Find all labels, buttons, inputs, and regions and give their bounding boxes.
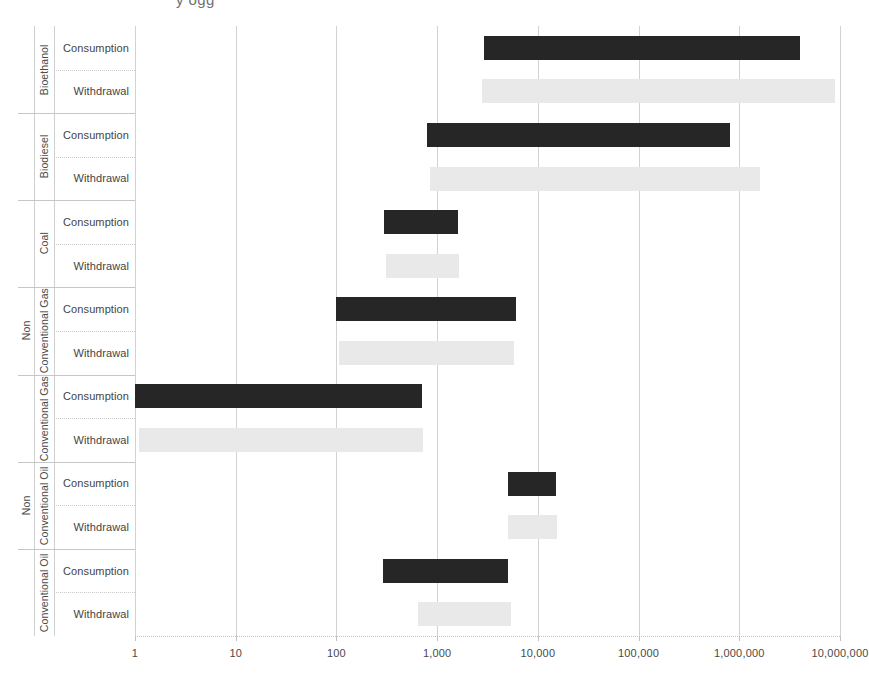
measure-separator	[54, 331, 135, 332]
group-separator	[18, 549, 135, 550]
measure-separator	[54, 505, 135, 506]
measure-label-consumption: Consumption	[54, 375, 129, 419]
gridline	[336, 26, 337, 636]
bar-coal-withdrawal[interactable]	[386, 254, 459, 278]
bar-coal-consumption[interactable]	[384, 210, 457, 234]
group-label-bioethanol: Bioethanol	[38, 26, 50, 113]
x-axis-tick-label: 100,000	[618, 647, 659, 659]
x-axis-tick-label: 1	[132, 647, 138, 659]
group-separator	[18, 200, 135, 201]
gridline	[236, 26, 237, 636]
gridline	[840, 26, 841, 636]
x-axis-tick	[135, 636, 136, 641]
measure-label-consumption: Consumption	[54, 287, 129, 331]
measure-label-consumption: Consumption	[54, 26, 129, 70]
measure-separator	[54, 244, 135, 245]
measure-label-withdrawal: Withdrawal	[54, 70, 129, 114]
bar-conventional-gas-withdrawal[interactable]	[339, 341, 514, 365]
x-axis-tick	[437, 636, 438, 641]
group-label-conventional-gas: Conventional Gas	[38, 287, 50, 374]
x-axis-tick	[840, 636, 841, 641]
x-axis: 1101001,00010,000100,0001,000,00010,000,…	[135, 636, 840, 684]
measure-separator	[54, 592, 135, 593]
x-axis-tick	[236, 636, 237, 641]
group-label-conventional-oil: Conventional Oil	[38, 462, 50, 549]
measure-label-consumption: Consumption	[54, 462, 129, 506]
gridline	[639, 26, 640, 636]
measure-label-withdrawal: Withdrawal	[54, 157, 129, 201]
outer-category-gutter: NonNon	[18, 26, 34, 636]
measure-label-consumption: Consumption	[54, 549, 129, 593]
bar-bioethanol-consumption[interactable]	[484, 36, 800, 60]
bar-biodiesel-consumption[interactable]	[427, 123, 729, 147]
group-separator	[18, 287, 135, 288]
bar-conventional-oil-withdrawal[interactable]	[508, 515, 557, 539]
outer-label-non: Non	[20, 287, 32, 374]
bar-conventional-gas-consumption[interactable]	[336, 297, 515, 321]
measure-label-withdrawal: Withdrawal	[54, 592, 129, 636]
x-axis-tick-label: 10,000	[520, 647, 555, 659]
outer-label-non: Non	[20, 462, 32, 549]
plot-area	[135, 26, 840, 636]
measure-label-withdrawal: Withdrawal	[54, 418, 129, 462]
x-axis-tick-label: 1,000	[423, 647, 452, 659]
bar-conventional-oil-consumption[interactable]	[508, 472, 556, 496]
group-separator	[18, 462, 135, 463]
bar-bioethanol-withdrawal[interactable]	[482, 79, 835, 103]
x-axis-tick	[739, 636, 740, 641]
x-axis-tick	[639, 636, 640, 641]
x-axis-tick-label: 10,000,000	[811, 647, 868, 659]
measure-label-consumption: Consumption	[54, 113, 129, 157]
measure-label-withdrawal: Withdrawal	[54, 244, 129, 288]
gridline	[135, 26, 136, 636]
x-axis-tick-label: 10	[229, 647, 242, 659]
bar-conventional-gas-consumption[interactable]	[135, 384, 422, 408]
clipped-title-artifact: y ogg	[176, 0, 215, 8]
measure-separator	[54, 70, 135, 71]
x-axis-tick	[538, 636, 539, 641]
gridline	[437, 26, 438, 636]
group-category-gutter: BioethanolBiodieselCoalConventional GasC…	[34, 26, 54, 636]
bar-conventional-oil-withdrawal[interactable]	[418, 602, 511, 626]
gridline	[538, 26, 539, 636]
bar-conventional-gas-withdrawal[interactable]	[139, 428, 423, 452]
measure-separator	[54, 157, 135, 158]
x-axis-tick-label: 1,000,000	[714, 647, 765, 659]
gridline	[739, 26, 740, 636]
measure-label-withdrawal: Withdrawal	[54, 331, 129, 375]
bar-biodiesel-withdrawal[interactable]	[430, 167, 760, 191]
group-label-conventional-gas: Conventional Gas	[38, 375, 50, 462]
group-label-conventional-oil: Conventional Oil	[38, 549, 50, 636]
x-axis-line	[135, 636, 840, 637]
measure-label-consumption: Consumption	[54, 200, 129, 244]
group-label-coal: Coal	[38, 200, 50, 287]
measure-separator	[54, 418, 135, 419]
x-axis-tick	[336, 636, 337, 641]
group-separator	[18, 113, 135, 114]
group-separator	[18, 375, 135, 376]
bar-conventional-oil-consumption[interactable]	[383, 559, 508, 583]
group-label-biodiesel: Biodiesel	[38, 113, 50, 200]
x-axis-tick-label: 100	[327, 647, 346, 659]
measure-label-withdrawal: Withdrawal	[54, 505, 129, 549]
